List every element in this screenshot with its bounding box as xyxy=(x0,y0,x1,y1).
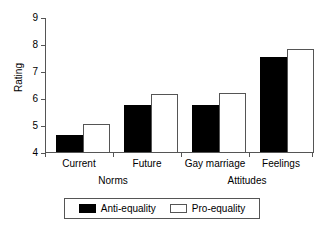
legend-label-pro-equality: Pro-equality xyxy=(192,204,245,214)
legend-swatch-anti-equality-icon xyxy=(79,204,96,213)
x-tick-gaymarriage-feelings xyxy=(249,152,250,157)
x-axis-line xyxy=(45,152,313,153)
bar-chart-figure: Rating 9 8 7 6 5 4 Current Future Gay ma… xyxy=(0,0,326,231)
bar-future-anti-equality xyxy=(124,105,151,153)
group-label-attitudes: Attitudes xyxy=(181,175,313,186)
bar-feelings-anti-equality xyxy=(260,57,287,153)
y-tick-label-8: 8 xyxy=(24,40,38,50)
bar-gay-marriage-anti-equality xyxy=(192,105,219,153)
legend-label-anti-equality: Anti-equality xyxy=(101,204,156,214)
category-label-gay-marriage: Gay marriage xyxy=(178,158,252,169)
bar-current-pro-equality xyxy=(83,124,110,153)
x-tick-current-future xyxy=(113,152,114,157)
x-tick-end xyxy=(312,152,313,157)
y-tick-label-6: 6 xyxy=(24,94,38,104)
chart-legend: Anti-equality Pro-equality xyxy=(64,198,260,219)
y-axis-label: Rating xyxy=(13,48,24,108)
category-label-feelings: Feelings xyxy=(249,158,313,169)
category-label-current: Current xyxy=(45,158,113,169)
y-tick-label-4: 4 xyxy=(24,148,38,158)
legend-swatch-pro-equality-icon xyxy=(170,204,187,213)
bar-feelings-pro-equality xyxy=(287,49,314,153)
x-tick-start xyxy=(45,152,46,157)
group-label-norms: Norms xyxy=(45,175,181,186)
y-tick-label-9: 9 xyxy=(24,13,38,23)
plot-area xyxy=(46,18,312,153)
category-label-future: Future xyxy=(113,158,181,169)
legend-item-pro-equality: Pro-equality xyxy=(170,204,245,214)
x-tick-future-gaymarriage xyxy=(181,152,182,157)
bar-current-anti-equality xyxy=(56,135,83,153)
y-tick-label-5: 5 xyxy=(24,121,38,131)
y-tick-label-7: 7 xyxy=(24,67,38,77)
legend-item-anti-equality: Anti-equality xyxy=(79,204,156,214)
bar-gay-marriage-pro-equality xyxy=(219,93,246,153)
bar-future-pro-equality xyxy=(151,94,178,153)
